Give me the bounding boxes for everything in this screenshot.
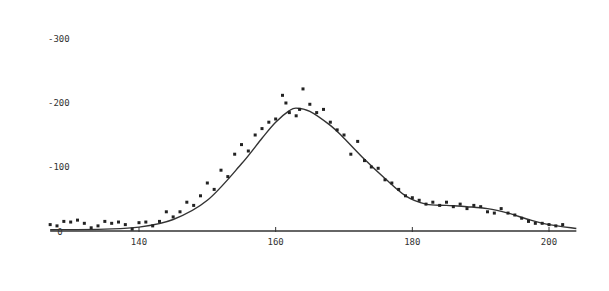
data-point [254,134,257,137]
data-point [472,204,475,207]
data-point [329,121,332,124]
data-point [459,203,462,206]
data-point [247,150,250,153]
data-point [76,219,79,222]
data-point [62,220,65,223]
data-point [322,108,325,111]
x-axis: 140160180200 [50,227,576,247]
data-point [315,111,318,114]
data-point [220,169,223,172]
data-point [507,212,510,215]
data-point [343,134,346,137]
y-tick-label: -300 [48,34,70,44]
data-point [90,226,93,229]
data-point [308,103,311,106]
data-point [179,210,182,213]
data-point [284,102,287,105]
data-point [349,153,352,156]
data-point [548,223,551,226]
data-point [356,140,359,143]
data-point [377,167,380,170]
data-point [438,204,441,207]
data-point [274,118,277,121]
data-point [213,188,216,191]
data-point [425,203,428,206]
curve-line [50,108,576,230]
data-point [83,222,86,225]
data-point [370,166,373,169]
data-point [302,87,305,90]
data-point [554,224,557,227]
x-tick-label: 160 [268,237,284,247]
data-point [411,196,414,199]
x-tick-label: 200 [541,237,557,247]
data-point [390,182,393,185]
data-point [534,222,537,225]
data-point [445,201,448,204]
data-point [138,221,141,224]
data-point [233,153,236,156]
data-point [397,188,400,191]
fitted-curve [50,108,576,230]
data-point [226,175,229,178]
y-tick-label: 0 [57,227,62,237]
data-point [431,201,434,204]
y-tick-label: -100 [48,162,70,172]
data-point [97,224,100,227]
data-point [466,207,469,210]
y-tick-label: -200 [48,98,70,108]
data-point [486,210,489,213]
data-point [117,221,120,224]
data-point [452,205,455,208]
data-point [206,182,209,185]
data-point [199,194,202,197]
data-point [192,204,195,207]
data-point [240,143,243,146]
data-point [172,215,175,218]
x-tick-label: 140 [131,237,147,247]
data-point [513,214,516,217]
data-point [185,201,188,204]
data-point [493,212,496,215]
data-point [151,224,154,227]
data-point [527,220,530,223]
data-point [298,108,301,111]
x-tick-label: 180 [404,237,420,247]
data-point [56,224,59,227]
data-point [110,222,113,225]
data-point [69,221,72,224]
data-point [404,194,407,197]
data-point [288,111,291,114]
data-point [267,121,270,124]
data-point [520,217,523,220]
data-point [384,178,387,181]
data-point [479,205,482,208]
data-point [418,199,421,202]
y-axis: 0-100-200-300 [48,34,70,237]
data-point [500,207,503,210]
data-point [144,221,147,224]
data-point [281,94,284,97]
data-point [261,127,264,130]
data-point [158,220,161,223]
chart: 0-100-200-300 140160180200 [0,0,609,291]
data-point [541,222,544,225]
data-point [561,223,564,226]
data-point [165,210,168,213]
data-point [336,128,339,131]
data-point [295,114,298,117]
data-point [124,223,127,226]
data-point [363,159,366,162]
data-point [131,228,134,231]
data-point [103,220,106,223]
data-point [49,223,52,226]
